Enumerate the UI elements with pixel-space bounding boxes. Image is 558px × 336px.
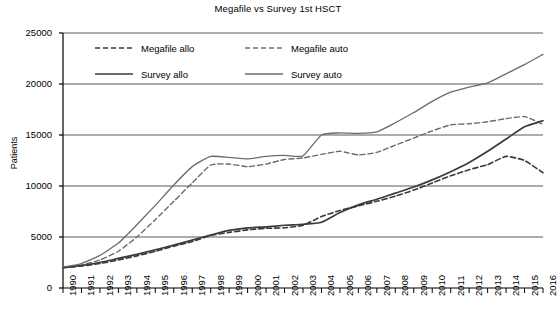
x-tick-label: 1992 (104, 275, 115, 296)
data-series (63, 54, 543, 267)
x-tick-label: 1993 (122, 275, 133, 296)
x-tick-label: 1996 (178, 275, 189, 296)
legend-label: Survey auto (291, 69, 342, 80)
x-tick-label: 2002 (289, 275, 300, 296)
y-tick-label: 20000 (12, 79, 52, 89)
x-tick-label: 2005 (344, 275, 355, 296)
gridlines (63, 33, 543, 237)
y-axis-tick-labels: 0500010000150002000025000 (8, 0, 52, 336)
x-tick-label: 2011 (455, 276, 466, 296)
x-tick-label: 1991 (85, 275, 96, 296)
x-tick-label: 2004 (325, 275, 336, 296)
series-line-survey-allo (63, 121, 543, 268)
legend-label: Survey allo (141, 69, 188, 80)
x-tick-label: 2001 (270, 275, 281, 296)
y-tick-label: 5000 (12, 232, 52, 242)
legend-label: Megafile auto (291, 43, 348, 54)
x-tick-label: 1998 (215, 275, 226, 296)
y-tick-label: 15000 (12, 130, 52, 140)
x-axis-ticks (63, 288, 543, 293)
x-tick-label: 2016 (547, 275, 558, 296)
y-tick-label: 25000 (12, 28, 52, 38)
x-tick-label: 2007 (381, 275, 392, 296)
y-tick-label: 0 (12, 283, 52, 293)
x-tick-label: 2006 (362, 275, 373, 296)
x-tick-label: 2009 (418, 275, 429, 296)
x-tick-label: 2013 (492, 275, 503, 296)
x-tick-label: 2003 (307, 275, 318, 296)
x-tick-label: 1990 (67, 275, 78, 296)
x-tick-label: 2012 (473, 275, 484, 296)
x-tick-label: 2010 (436, 275, 447, 296)
x-tick-label: 2000 (252, 275, 263, 296)
x-tick-label: 2015 (529, 275, 540, 296)
x-tick-label: 2008 (399, 275, 410, 296)
x-tick-label: 2014 (510, 275, 521, 296)
x-tick-label: 1999 (233, 275, 244, 296)
chart-legend: Megafile alloMegafile autoSurvey alloSur… (95, 43, 348, 80)
x-tick-label: 1994 (141, 275, 152, 296)
series-line-megafile-allo (63, 156, 543, 267)
series-line-megafile-auto (63, 117, 543, 268)
x-tick-label: 1995 (159, 275, 170, 296)
x-tick-label: 1997 (196, 275, 207, 296)
y-tick-label: 10000 (12, 181, 52, 191)
legend-label: Megafile allo (141, 43, 194, 54)
chart-title: Megafile vs Survey 1st HSCT (0, 3, 556, 14)
